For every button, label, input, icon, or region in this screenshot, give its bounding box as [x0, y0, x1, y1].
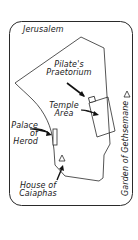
temple-area-outline [89, 97, 115, 137]
arrow-praetorium [67, 83, 85, 97]
label-garden-of-gethsemane: Garden of Gethsemane [122, 101, 130, 196]
praetorium-building [88, 96, 95, 102]
label-line: Caiaphas [12, 190, 64, 198]
label-temple-area: Temple Area [46, 102, 82, 118]
arrow-temple [81, 110, 99, 116]
arrow-caiaphas [57, 165, 64, 180]
label-line: Praetorium [44, 69, 94, 77]
label-pilates-praetorium: Pilate's Praetorium [44, 61, 94, 77]
label-line: Area [46, 110, 82, 118]
label-house-of-caiaphas: House of Caiaphas [12, 182, 64, 198]
triangle-gethsemane-icon [124, 91, 130, 97]
label-line: Herod [4, 138, 38, 146]
map-title: Jerusalem [23, 26, 64, 34]
label-palace-of-herod: Palace of Herod [4, 122, 38, 146]
palace-of-herod-building [53, 129, 57, 145]
triangle-caiaphas-icon [59, 155, 65, 161]
